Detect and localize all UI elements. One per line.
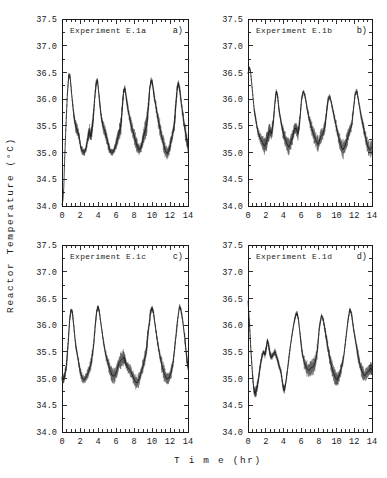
y-tick-label: 34.0 — [222, 428, 243, 438]
reactor-temperature-figure: 0246810121434.034.535.035.536.036.537.03… — [0, 0, 387, 478]
x-tick-label: 14 — [183, 211, 193, 221]
plot-frame — [249, 246, 373, 433]
x-tick-label: 8 — [316, 211, 321, 221]
x-axis-title: T i m e (hr) — [174, 455, 262, 466]
y-tick-label: 37.5 — [222, 241, 243, 251]
y-tick-label: 37.5 — [36, 241, 57, 251]
x-tick-label: 8 — [131, 211, 136, 221]
x-tick-label: 2 — [263, 437, 268, 447]
y-tick-label: 36.0 — [36, 321, 57, 331]
panel-title: Experiment E.1c — [70, 252, 146, 261]
y-tick-label: 35.5 — [36, 122, 57, 132]
panel-group: 0246810121434.034.535.035.536.036.537.03… — [36, 15, 377, 447]
x-tick-label: 14 — [367, 211, 377, 221]
y-tick-label: 37.0 — [222, 42, 243, 52]
y-tick-label: 34.0 — [222, 202, 243, 212]
plot-frame — [63, 246, 189, 433]
panel-letter: c) — [173, 252, 183, 262]
panel-letter: d) — [357, 252, 367, 262]
x-tick-label: 2 — [77, 437, 82, 447]
y-tick-label: 36.5 — [36, 295, 57, 305]
data-series-line — [62, 75, 188, 205]
y-tick-label: 37.0 — [222, 268, 243, 278]
y-tick-label: 34.5 — [222, 401, 243, 411]
panel-c: 0246810121434.034.535.035.536.036.537.03… — [36, 241, 193, 447]
y-tick-label: 36.0 — [36, 95, 57, 105]
panel-letter: a) — [173, 26, 183, 36]
x-tick-label: 4 — [95, 437, 100, 447]
y-tick-label: 37.0 — [36, 268, 57, 278]
x-tick-label: 4 — [95, 211, 100, 221]
x-tick-label: 10 — [147, 211, 157, 221]
y-tick-label: 37.5 — [36, 15, 57, 25]
x-tick-label: 4 — [281, 211, 286, 221]
y-tick-label: 34.0 — [36, 428, 57, 438]
y-tick-label: 34.5 — [222, 175, 243, 185]
x-tick-label: 8 — [131, 437, 136, 447]
data-series-line — [248, 301, 372, 393]
x-tick-label: 0 — [245, 437, 250, 447]
y-tick-label: 34.5 — [36, 175, 57, 185]
y-tick-label: 35.0 — [222, 375, 243, 385]
x-tick-label: 6 — [113, 437, 118, 447]
x-tick-label: 10 — [331, 437, 341, 447]
y-tick-label: 36.0 — [222, 95, 243, 105]
x-tick-label: 14 — [183, 437, 193, 447]
panel-letter: b) — [357, 26, 367, 36]
panel-title: Experiment E.1b — [256, 26, 332, 35]
x-tick-label: 2 — [77, 211, 82, 221]
y-tick-label: 36.0 — [222, 321, 243, 331]
x-tick-label: 12 — [165, 437, 175, 447]
noise-scatter — [65, 73, 188, 160]
y-tick-label: 34.5 — [36, 401, 57, 411]
panel-b: 0246810121434.034.535.035.536.036.537.03… — [222, 15, 377, 221]
x-tick-label: 10 — [147, 437, 157, 447]
y-tick-label: 35.0 — [36, 375, 57, 385]
x-tick-label: 0 — [59, 211, 64, 221]
noise-scatter — [249, 308, 371, 398]
y-tick-label: 35.0 — [222, 149, 243, 159]
y-tick-label: 35.0 — [36, 149, 57, 159]
plot-frame — [63, 20, 189, 207]
y-tick-label: 37.0 — [36, 42, 57, 52]
y-tick-label: 36.5 — [222, 69, 243, 79]
x-tick-label: 8 — [316, 437, 321, 447]
plot-frame — [249, 20, 373, 207]
noise-scatter — [62, 304, 188, 389]
x-tick-label: 2 — [263, 211, 268, 221]
x-tick-label: 14 — [367, 437, 377, 447]
x-tick-label: 6 — [299, 437, 304, 447]
y-tick-label: 35.5 — [222, 122, 243, 132]
x-tick-label: 4 — [281, 437, 286, 447]
x-tick-label: 0 — [59, 437, 64, 447]
y-tick-label: 35.5 — [36, 348, 57, 358]
y-tick-label: 34.0 — [36, 202, 57, 212]
y-tick-label: 36.5 — [36, 69, 57, 79]
x-tick-label: 0 — [245, 211, 250, 221]
panel-d: 0246810121434.034.535.035.536.036.537.03… — [222, 241, 377, 447]
y-axis-title: Reactor Temperature (°C) — [5, 137, 16, 313]
y-tick-label: 36.5 — [222, 295, 243, 305]
panel-title: Experiment E.1a — [70, 26, 146, 35]
x-tick-label: 6 — [113, 211, 118, 221]
y-tick-label: 37.5 — [222, 15, 243, 25]
x-tick-label: 12 — [349, 437, 359, 447]
x-tick-label: 12 — [165, 211, 175, 221]
panel-a: 0246810121434.034.535.035.536.036.537.03… — [36, 15, 193, 221]
x-tick-label: 12 — [349, 211, 359, 221]
x-tick-label: 6 — [299, 211, 304, 221]
x-tick-label: 10 — [331, 211, 341, 221]
panel-title: Experiment E.1d — [256, 252, 332, 261]
y-tick-label: 35.5 — [222, 348, 243, 358]
